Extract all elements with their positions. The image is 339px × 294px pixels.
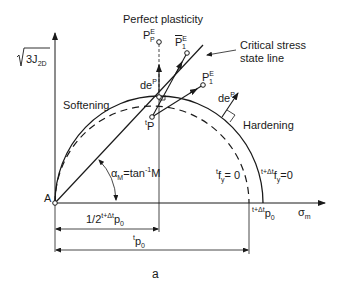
origin-point-A bbox=[53, 201, 58, 206]
angle-arc bbox=[99, 160, 116, 200]
angle-label: αM=tan-1M bbox=[111, 168, 160, 179]
half-p0-label: 1/2t+Δtp0 bbox=[86, 214, 124, 225]
softening-label: Softening bbox=[63, 100, 109, 111]
point-intersection bbox=[157, 95, 162, 100]
point-P1E bbox=[201, 83, 206, 88]
hardening-label: Hardening bbox=[243, 120, 294, 131]
yield-tdt-label: t+Δtfy=0 bbox=[261, 170, 293, 181]
critical-line-label-1: Critical stress bbox=[240, 40, 306, 51]
perfect-plasticity-label: Perfect plasticity bbox=[123, 14, 203, 25]
y-axis-label: 3J2D bbox=[26, 54, 47, 65]
p0-tdt-label: t+Δtp0 bbox=[252, 208, 275, 219]
point-PPE bbox=[157, 40, 162, 45]
point-PPE-label: PEP bbox=[143, 30, 155, 41]
point-P1E-bar bbox=[185, 51, 190, 56]
point-tP-label: tP bbox=[145, 121, 154, 132]
panel-label: a bbox=[152, 268, 159, 280]
yield-t-label: tfy= 0 bbox=[216, 170, 240, 181]
critical-line-label-2: state line bbox=[240, 53, 284, 64]
origin-label: A bbox=[44, 193, 51, 204]
dep-label-normal: deP bbox=[218, 93, 235, 104]
x-axis-label: σm bbox=[298, 207, 311, 218]
point-P1E-bar-label: PE1 bbox=[175, 37, 186, 48]
tp0-label: tp0 bbox=[133, 236, 145, 247]
point-tP bbox=[150, 115, 155, 120]
point-P1E-label: PE1 bbox=[202, 72, 213, 83]
critical-state-line bbox=[55, 45, 203, 203]
dep-label-vertical: deP bbox=[140, 80, 157, 91]
